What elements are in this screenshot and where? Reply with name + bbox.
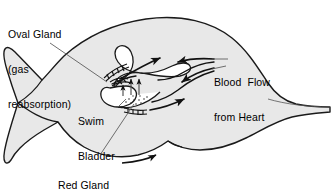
- label-oval-gland-line3: reabsorption): [8, 99, 71, 111]
- label-blood-flow: Blood Flow from Heart: [214, 54, 270, 147]
- label-oval-gland: Oval Gland (gas reabsorption): [8, 6, 71, 134]
- label-oval-gland-line1: Oval Gland: [8, 29, 71, 41]
- label-blood-flow-line1: Blood Flow: [214, 77, 270, 89]
- label-blood-flow-line2: from Heart: [214, 112, 270, 124]
- label-swim-bladder-line1: Swim: [78, 116, 115, 128]
- label-oval-gland-line2: (gas: [8, 64, 71, 76]
- label-red-gland-line1: Red Gland: [58, 180, 129, 192]
- label-red-gland: Red Gland (gas secretion): [58, 157, 129, 192]
- swim-bladder-diagram: Oval Gland (gas reabsorption) Blood Flow…: [0, 0, 334, 192]
